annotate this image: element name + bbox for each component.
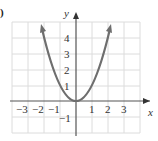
y-tick-4: 4: [64, 33, 70, 44]
x-tick-2: 2: [105, 104, 111, 115]
x-tick-neg3: −3: [16, 104, 28, 115]
x-tick-neg2: −2: [32, 104, 44, 115]
y-tick-2: 2: [64, 65, 70, 76]
y-axis-label: y: [64, 8, 69, 19]
x-tick-3: 3: [121, 104, 127, 115]
y-tick-neg1: −1: [59, 113, 71, 124]
x-axis-arrow-icon: [143, 98, 150, 104]
x-tick-neg1: −1: [48, 104, 60, 115]
y-axis-arrow-icon: [73, 12, 79, 19]
curve-arrow-left-icon: [40, 24, 46, 33]
y-tick-1: 1: [64, 81, 70, 92]
x-tick-1: 1: [89, 104, 95, 115]
y-tick-3: 3: [64, 49, 70, 60]
axes: [10, 14, 150, 136]
x-axis-label: x: [148, 107, 153, 118]
parabola-chart: [0, 0, 158, 141]
curve-arrow-right-icon: [106, 24, 112, 33]
